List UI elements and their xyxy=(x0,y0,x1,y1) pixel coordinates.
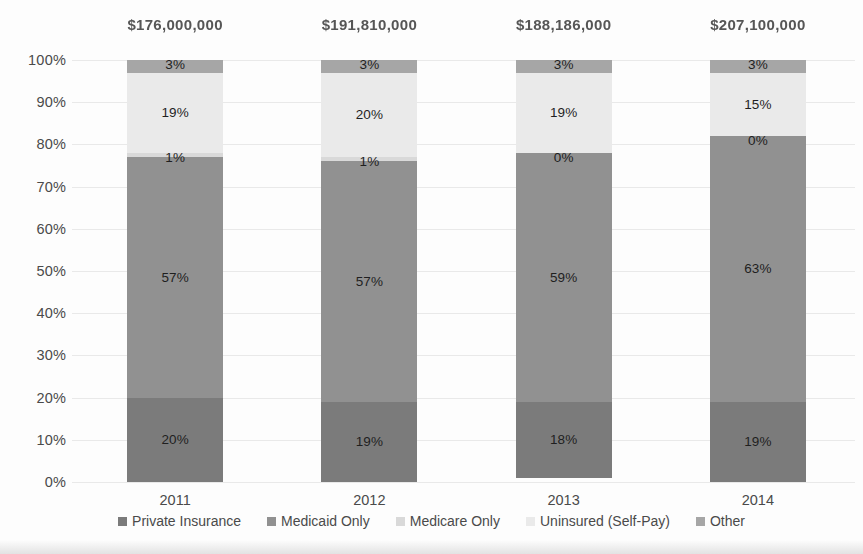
segment-value-label: 57% xyxy=(162,271,189,285)
segment-value-label: 15% xyxy=(744,98,771,112)
segment-value-label: 3% xyxy=(360,60,380,72)
bar-segment-other[interactable]: 3% xyxy=(321,60,417,73)
legend-item-medicaid-only[interactable]: Medicaid Only xyxy=(267,513,370,529)
y-axis-tick-label: 0% xyxy=(4,474,66,490)
bar-segment-uninsured-self-pay[interactable]: 19% xyxy=(127,73,223,153)
bar-segment-private-insurance[interactable]: 18% xyxy=(516,402,612,478)
legend-swatch-icon xyxy=(118,517,127,526)
y-axis-tick-label: 80% xyxy=(4,136,66,152)
bar-segment-medicaid-only[interactable]: 63% xyxy=(710,136,806,402)
legend-label: Private Insurance xyxy=(132,513,241,529)
segment-value-label: 3% xyxy=(165,60,185,72)
legend-label: Medicaid Only xyxy=(281,513,370,529)
chart-legend: Private InsuranceMedicaid OnlyMedicare O… xyxy=(0,513,863,529)
bar-column-2014: $207,100,0003%15%0%63%19%2014 xyxy=(661,0,855,554)
bar-segment-other[interactable]: 3% xyxy=(516,60,612,73)
y-axis-tick-label: 100% xyxy=(4,52,66,68)
x-axis-category-label: 2014 xyxy=(661,492,855,508)
segment-value-label: 3% xyxy=(554,60,574,72)
bar-column-2011: $176,000,0003%19%1%57%20%2011 xyxy=(78,0,272,554)
segment-value-label: 19% xyxy=(550,106,577,120)
column-total-label: $191,810,000 xyxy=(272,16,466,33)
chart-page: 0%10%20%30%40%50%60%70%80%90%100% $176,0… xyxy=(0,0,863,554)
legend-item-private-insurance[interactable]: Private Insurance xyxy=(118,513,241,529)
bar-segment-other[interactable]: 3% xyxy=(710,60,806,73)
legend-swatch-icon xyxy=(696,517,705,526)
bar-segment-private-insurance[interactable]: 19% xyxy=(321,402,417,482)
stacked-bar[interactable]: 3%20%1%57%19% xyxy=(321,60,417,482)
bar-segment-private-insurance[interactable]: 20% xyxy=(127,398,223,482)
segment-value-label: 0% xyxy=(748,134,768,148)
legend-label: Other xyxy=(710,513,745,529)
segment-value-label: 19% xyxy=(744,435,771,449)
bar-segment-uninsured-self-pay[interactable]: 15% xyxy=(710,73,806,136)
segment-value-label: 18% xyxy=(550,433,577,447)
y-axis: 0%10%20%30%40%50%60%70%80%90%100% xyxy=(0,0,66,554)
segment-value-label: 20% xyxy=(162,433,189,447)
column-total-label: $188,186,000 xyxy=(467,16,661,33)
bar-column-2013: $188,186,0003%19%0%59%18%2013 xyxy=(467,0,661,554)
y-axis-tick-label: 70% xyxy=(4,179,66,195)
segment-value-label: 19% xyxy=(162,106,189,120)
segment-value-label: 19% xyxy=(356,435,383,449)
bar-segment-uninsured-self-pay[interactable]: 20% xyxy=(321,73,417,157)
y-axis-tick-label: 40% xyxy=(4,305,66,321)
bar-column-2012: $191,810,0003%20%1%57%19%2012 xyxy=(272,0,466,554)
legend-swatch-icon xyxy=(396,517,405,526)
bar-segment-private-insurance[interactable]: 19% xyxy=(710,402,806,482)
legend-label: Uninsured (Self-Pay) xyxy=(540,513,670,529)
segment-value-label: 1% xyxy=(360,155,380,169)
legend-item-medicare-only[interactable]: Medicare Only xyxy=(396,513,500,529)
y-axis-tick-label: 50% xyxy=(4,263,66,279)
segment-value-label: 59% xyxy=(550,271,577,285)
x-axis-category-label: 2011 xyxy=(78,492,272,508)
legend-item-other[interactable]: Other xyxy=(696,513,745,529)
y-axis-tick-label: 30% xyxy=(4,347,66,363)
x-axis-category-label: 2012 xyxy=(272,492,466,508)
segment-value-label: 0% xyxy=(554,151,574,165)
stacked-bar[interactable]: 3%19%0%59%18% xyxy=(516,60,612,482)
legend-swatch-icon xyxy=(267,517,276,526)
y-axis-tick-label: 20% xyxy=(4,390,66,406)
stacked-bar-chart: 0%10%20%30%40%50%60%70%80%90%100% $176,0… xyxy=(0,0,863,554)
segment-value-label: 1% xyxy=(165,151,185,165)
y-axis-tick-label: 90% xyxy=(4,94,66,110)
y-axis-tick-label: 10% xyxy=(4,432,66,448)
segment-value-label: 3% xyxy=(748,60,768,72)
bar-segment-uninsured-self-pay[interactable]: 19% xyxy=(516,73,612,153)
bar-segment-medicaid-only[interactable]: 57% xyxy=(127,157,223,398)
x-axis-category-label: 2013 xyxy=(467,492,661,508)
bar-segment-medicaid-only[interactable]: 59% xyxy=(516,153,612,402)
segment-value-label: 20% xyxy=(356,108,383,122)
bar-segment-medicaid-only[interactable]: 57% xyxy=(321,161,417,402)
column-total-label: $207,100,000 xyxy=(661,16,855,33)
bar-segment-other[interactable]: 3% xyxy=(127,60,223,73)
legend-item-uninsured-self-pay[interactable]: Uninsured (Self-Pay) xyxy=(526,513,670,529)
legend-swatch-icon xyxy=(526,517,535,526)
stacked-bar[interactable]: 3%19%1%57%20% xyxy=(127,60,223,482)
legend-label: Medicare Only xyxy=(410,513,500,529)
column-total-label: $176,000,000 xyxy=(78,16,272,33)
segment-value-label: 63% xyxy=(744,262,771,276)
segment-value-label: 57% xyxy=(356,275,383,289)
y-axis-tick-label: 60% xyxy=(4,221,66,237)
stacked-bar[interactable]: 3%15%0%63%19% xyxy=(710,60,806,482)
